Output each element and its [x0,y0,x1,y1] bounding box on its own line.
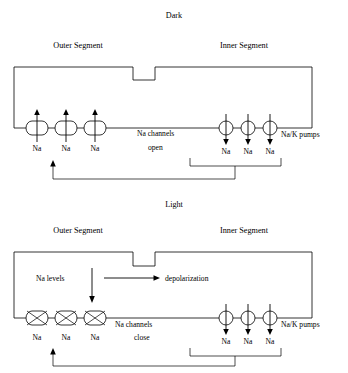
panel-dark-na-channel-2 [55,109,77,142]
panel-light-pump-ion-label-3: Na [266,337,275,346]
panel-light-channel-state-line1: Na channels [115,320,152,329]
panel-dark-pump-ion-label-1: Na [222,147,231,156]
panel-light-na-channel-3 [84,311,106,325]
panel-light-membrane-outline [14,252,312,318]
panel-light-depolarization-arrow [104,275,160,281]
panel-dark-channel-state-line2: open [148,143,163,152]
panel-light-channel-ion-label-1: Na [33,333,42,342]
panel-light-pump-ion-label-2: Na [244,337,253,346]
panel-light-feedback-path [53,353,235,366]
panel-light-nak-pump-2 [241,304,255,335]
panel-dark-channel-ion-label-1: Na [33,144,42,153]
panel-dark-pumps-label: Na/K pumps [281,130,320,139]
panel-dark-title: Dark [166,11,183,20]
panel-dark-pump-ion-label-3: Na [266,147,275,156]
panel-light-channel-ion-label-2: Na [62,333,71,342]
panel-light-channel-ion-label-3: Na [91,333,100,342]
photoreceptor-diagram: Dark Outer Segment Inner Segment [0,0,348,373]
panel-light-nak-pump-3 [263,304,277,335]
panel-light-nak-pump-1 [219,304,233,335]
panel-light-na-levels-label: Na levels [36,274,65,283]
panel-light-outer-segment-label: Outer Segment [53,226,103,235]
panel-light-channel-state-line2: close [134,333,150,342]
panel-dark-nak-pump-3 [263,114,277,145]
panel-dark-nak-pump-1 [219,114,233,145]
panel-dark-channel-ion-label-2: Na [62,144,71,153]
panel-light: Light Outer Segment Inner Segment Na lev… [14,200,320,366]
panel-light-na-channel-2 [55,311,77,325]
panel-dark-feedback-bracket [190,158,281,166]
panel-light-feedback-arrowhead [50,348,56,355]
panel-dark-na-channel-3 [84,109,106,142]
panel-dark-nak-pump-2 [241,114,255,145]
panel-light-na-channel-1 [26,311,48,325]
panel-light-feedback-bracket [190,348,281,356]
panel-light-depolarization-label: depolarization [165,274,209,283]
panel-dark-feedback-arrowhead [50,160,56,167]
panel-light-inner-segment-label: Inner Segment [220,226,269,235]
panel-dark-inner-segment-label: Inner Segment [220,41,269,50]
panel-dark-na-channel-1 [26,109,48,142]
panel-dark-channel-ion-label-3: Na [91,144,100,153]
panel-light-title: Light [165,200,183,209]
figure-svg: Dark Outer Segment Inner Segment [0,0,348,373]
panel-dark: Dark Outer Segment Inner Segment [14,11,320,179]
panel-light-pump-ion-label-1: Na [222,337,231,346]
panel-light-pumps-label: Na/K pumps [281,320,320,329]
panel-dark-feedback-path [53,165,235,179]
panel-light-na-levels-down-arrow [89,268,95,303]
panel-dark-pump-ion-label-2: Na [244,147,253,156]
panel-dark-outer-segment-label: Outer Segment [53,41,103,50]
panel-dark-channel-state-line1: Na channels [137,129,174,138]
panel-dark-membrane-outline [14,67,312,128]
